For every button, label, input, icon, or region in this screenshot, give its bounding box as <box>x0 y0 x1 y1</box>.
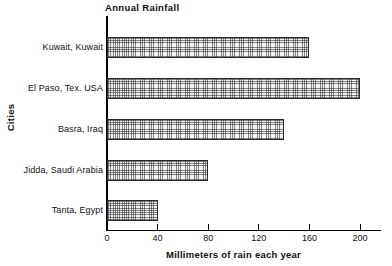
x-tick-mark <box>157 224 158 230</box>
x-tick-label: 40 <box>153 233 163 243</box>
bar <box>107 200 158 221</box>
category-label: El Paso, Tex. USA <box>28 83 103 93</box>
x-tick-mark <box>107 224 108 230</box>
x-tick-label: 160 <box>302 233 317 243</box>
x-tick-label: 80 <box>203 233 213 243</box>
category-label: Jidda, Saudi Arabia <box>24 165 103 175</box>
bar <box>107 78 360 99</box>
category-label: Kuwait, Kuwait <box>43 42 103 52</box>
x-tick-mark <box>208 224 209 230</box>
category-label-row: El Paso, Tex. USA <box>0 83 103 95</box>
category-label: Tanta, Egypt <box>52 205 103 215</box>
category-label-row: Tanta, Egypt <box>0 205 103 217</box>
x-tick-label: 120 <box>251 233 266 243</box>
bar <box>107 160 208 181</box>
bar-chart: Annual Rainfall Cities 04080120160200 Ku… <box>0 0 392 266</box>
x-tick-label: 200 <box>352 233 367 243</box>
x-tick-mark <box>309 224 310 230</box>
x-tick-mark <box>360 224 361 230</box>
x-axis-label: Millimeters of rain each year <box>107 249 360 260</box>
category-label-row: Basra, Iraq <box>0 124 103 136</box>
x-tick-label: 0 <box>104 233 109 243</box>
category-label: Basra, Iraq <box>58 124 103 134</box>
x-tick-mark <box>258 224 259 230</box>
category-label-row: Kuwait, Kuwait <box>0 42 103 54</box>
bar <box>107 37 309 58</box>
bar <box>107 119 284 140</box>
chart-title: Annual Rainfall <box>105 2 179 13</box>
category-label-row: Jidda, Saudi Arabia <box>0 165 103 177</box>
x-axis-line <box>106 230 381 231</box>
